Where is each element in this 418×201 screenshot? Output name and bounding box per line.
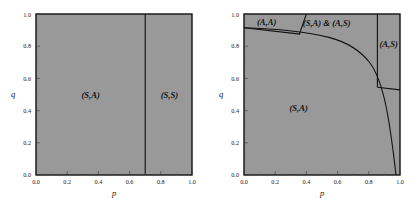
right-plot-panel: 0.0 0.2 0.4 0.6 0.8 1.0 0.0 0.2 0.4 0.6 …	[209, 0, 418, 201]
right-xtick-4: 0.8	[365, 178, 373, 185]
left-y-axis-title: q	[11, 89, 16, 99]
left-xtick-1: 0.2	[63, 178, 71, 185]
right-regions-fill	[244, 14, 400, 175]
left-ytick-5: 1.0	[23, 11, 31, 18]
left-x-axis-title: p	[111, 188, 116, 198]
right-xtick-0: 0.0	[240, 178, 248, 185]
left-xtick-3: 0.6	[126, 178, 134, 185]
left-ytick-0: 0.0	[23, 171, 31, 178]
left-plot-panel: 0.0 0.2 0.4 0.6 0.8 1.0 0.0 0.2 0.4 0.6 …	[0, 0, 209, 201]
left-ytick-1: 0.2	[23, 139, 31, 146]
right-xtick-2: 0.4	[303, 178, 311, 185]
figure-container: 0.0 0.2 0.4 0.6 0.8 1.0 0.0 0.2 0.4 0.6 …	[0, 0, 418, 201]
right-plot-svg: 0.0 0.2 0.4 0.6 0.8 1.0 0.0 0.2 0.4 0.6 …	[209, 0, 418, 201]
left-ytick-3: 0.6	[23, 75, 31, 82]
right-xtick-5: 1.0	[396, 178, 404, 185]
left-region-label-sa: (S,A)	[81, 90, 100, 100]
right-region-label-sa: (S,A)	[289, 103, 308, 113]
right-ytick-3: 0.6	[231, 75, 239, 82]
left-xtick-4: 0.8	[157, 178, 165, 185]
left-ytick-2: 0.4	[23, 107, 31, 114]
right-x-axis-title: p	[319, 188, 324, 198]
right-ytick-1: 0.2	[231, 139, 239, 146]
right-ytick-5: 1.0	[231, 11, 239, 18]
right-ytick-0: 0.0	[231, 171, 239, 178]
right-y-axis-title: q	[219, 89, 224, 99]
left-xtick-0: 0.0	[32, 178, 40, 185]
right-region-label-aa: (A,A)	[257, 17, 276, 27]
right-region-label-as: (A,S)	[380, 39, 399, 49]
right-ytick-2: 0.4	[231, 107, 239, 114]
right-region-label-sa-and-as: (S,A) & (A,S)	[303, 18, 351, 28]
right-ytick-4: 0.8	[231, 42, 239, 49]
left-plot-svg: 0.0 0.2 0.4 0.6 0.8 1.0 0.0 0.2 0.4 0.6 …	[0, 0, 209, 201]
left-ytick-4: 0.8	[23, 42, 31, 49]
right-xtick-1: 0.2	[271, 178, 279, 185]
right-xtick-3: 0.6	[334, 178, 342, 185]
left-xtick-2: 0.4	[95, 178, 103, 185]
left-region-label-ss: (S,S)	[161, 90, 179, 100]
left-xtick-5: 1.0	[188, 178, 196, 185]
